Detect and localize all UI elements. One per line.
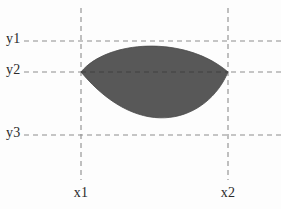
axis-label-x1: x1: [70, 186, 92, 200]
axis-label-x2: x2: [217, 186, 239, 200]
shaded-lens-region: [81, 46, 228, 118]
lens-region-figure: y1 y2 y3 x1 x2: [0, 0, 281, 209]
axis-label-y3: y3: [6, 126, 20, 140]
plot-canvas: [0, 0, 281, 209]
axis-label-y1: y1: [6, 32, 20, 46]
axis-label-y2: y2: [6, 63, 20, 77]
